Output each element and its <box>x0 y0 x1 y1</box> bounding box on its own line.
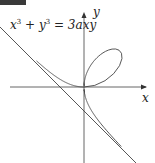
y-axis-label: y <box>93 5 100 19</box>
asymptote-line <box>0 27 155 163</box>
x-axis-label: x <box>142 91 149 105</box>
folium-curve <box>37 49 122 147</box>
x-axis-arrow-icon <box>141 85 147 90</box>
equation-label: x3 + y3 = 3axy <box>10 18 96 32</box>
